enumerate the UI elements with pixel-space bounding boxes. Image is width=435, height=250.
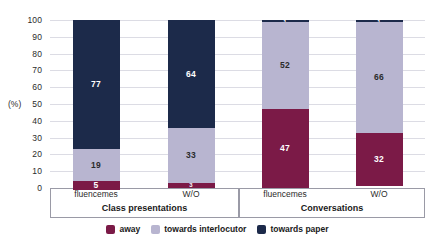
bar-class-presentations-fluencemes[interactable]: 77195 [73,20,120,188]
y-axis-tick-100: 100 [8,15,42,25]
y-axis-tick-40: 40 [8,116,42,126]
axis-category-label: W/O [183,189,200,199]
bar-class-presentations-w-o[interactable]: 64333 [168,20,215,188]
legend-swatch-icon [106,225,115,234]
bar-segment-paper[interactable]: 77 [73,20,120,149]
bar-segment-interlocutor[interactable]: 33 [168,128,215,183]
y-axis-tick-70: 70 [8,65,42,75]
y-axis-tick-90: 90 [8,32,42,42]
bar-segment-value: 66 [374,73,384,82]
legend-item-away[interactable]: away [106,224,140,234]
y-axis-tick-60: 60 [8,82,42,92]
bar-segment-value: 64 [186,70,196,79]
legend-label: towards paper [270,224,328,234]
bar-segment-away[interactable]: 47 [262,109,309,188]
y-axis-tick-80: 80 [8,49,42,59]
legend-label: towards interlocutor [164,224,246,234]
axis-category-label: fluencemes [263,189,306,199]
axis-category-label: fluencemes [74,189,117,199]
y-axis-label: (%) [8,99,21,109]
stacked-bar-chart: 1009080706050403020100771956433315247166… [0,0,435,250]
bar-conversations-w-o[interactable]: 16632 [356,20,403,188]
axis-category-label: W/O [371,189,388,199]
bar-segment-value: 32 [374,155,384,164]
y-axis-tick-0: 0 [8,183,42,193]
legend-swatch-icon [257,225,266,234]
bar-segment-value: 33 [186,151,196,160]
y-axis-tick-10: 10 [8,166,42,176]
chart-legend: awaytowards interlocutortowards paper [0,224,435,234]
legend-item-towards-paper[interactable]: towards paper [257,224,328,234]
bar-segment-interlocutor[interactable]: 19 [73,149,120,181]
bar-conversations-fluencemes[interactable]: 15247 [262,20,309,188]
legend-swatch-icon [151,225,160,234]
bar-segment-value: 47 [280,144,290,153]
bar-segment-away[interactable]: 32 [356,133,403,187]
category-axis: Class presentationsConversationsfluencem… [50,188,425,218]
legend-label: away [119,224,140,234]
plot-area: 1009080706050403020100771956433315247166… [50,20,425,188]
bar-segment-paper[interactable]: 64 [168,20,215,128]
bar-segment-value: 52 [280,61,290,70]
bar-segment-interlocutor[interactable]: 66 [356,22,403,133]
y-axis-tick-20: 20 [8,149,42,159]
bar-segment-value: 19 [91,161,101,170]
legend-item-towards-interlocutor[interactable]: towards interlocutor [151,224,246,234]
bar-segment-interlocutor[interactable]: 52 [262,22,309,109]
axis-group-label-conversations: Conversations [301,203,364,213]
bar-segment-value: 77 [91,80,101,89]
axis-group-label-class-presentations: Class presentations [102,203,188,213]
y-axis-tick-30: 30 [8,133,42,143]
